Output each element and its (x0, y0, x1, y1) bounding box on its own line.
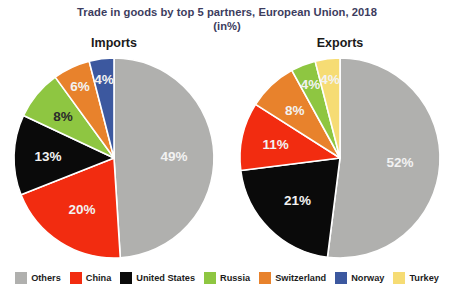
legend-swatch-icon (204, 272, 216, 284)
chart-page: Trade in goods by top 5 partners, Europe… (0, 0, 454, 301)
legend-item-label: Others (31, 272, 61, 284)
legend-swatch-icon (259, 272, 271, 284)
imports-pie-svg: 49%20%13%8%6%4% (8, 52, 220, 264)
pie-slice-label: 4% (301, 77, 321, 92)
exports-pie-svg: 52%21%11%8%4%4% (234, 52, 446, 264)
legend-item[interactable]: United States (120, 272, 195, 284)
legend-swatch-icon (15, 272, 27, 284)
imports-panel-title: Imports (54, 36, 174, 50)
legend-item[interactable]: Russia (204, 272, 250, 284)
exports-panel-title: Exports (280, 36, 400, 50)
pie-slice-label: 21% (284, 193, 311, 208)
pie-slice-label: 8% (285, 103, 305, 118)
pie-slice-label: 6% (70, 79, 90, 94)
legend-item[interactable]: Others (15, 272, 61, 284)
legend-swatch-icon (70, 272, 82, 284)
legend-item-label: Russia (220, 272, 250, 284)
imports-pie-chart: 49%20%13%8%6%4% (8, 52, 220, 264)
pie-slice-label: 20% (68, 202, 95, 217)
legend-swatch-icon (393, 272, 405, 284)
pie-slice-label: 11% (262, 137, 288, 152)
pie-slice-label: 8% (53, 109, 73, 124)
pie-slice-label: 49% (160, 149, 187, 164)
legend-swatch-icon (335, 272, 347, 284)
legend-swatch-icon (120, 272, 132, 284)
legend-item[interactable]: China (70, 272, 112, 284)
pie-slice-label: 52% (386, 155, 413, 170)
pie-slice-label: 13% (34, 149, 61, 164)
pie-slice-label: 4% (94, 72, 114, 87)
legend-item[interactable]: Switzerland (259, 272, 326, 284)
legend-item[interactable]: Turkey (393, 272, 438, 284)
legend-item[interactable]: Norway (335, 272, 384, 284)
legend: OthersChinaUnited StatesRussiaSwitzerlan… (0, 272, 454, 284)
legend-item-label: China (86, 272, 112, 284)
legend-item-label: United States (136, 272, 195, 284)
legend-item-label: Switzerland (275, 272, 326, 284)
page-subtitle: (in%) (0, 19, 454, 33)
pie-slice (327, 58, 440, 258)
legend-item-label: Norway (351, 272, 384, 284)
pie-slice-label: 4% (320, 72, 340, 87)
legend-item-label: Turkey (409, 272, 438, 284)
exports-pie-chart: 52%21%11%8%4%4% (234, 52, 446, 264)
page-title: Trade in goods by top 5 partners, Europe… (0, 5, 454, 19)
